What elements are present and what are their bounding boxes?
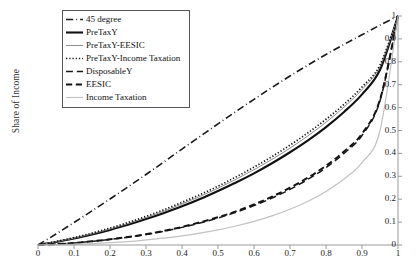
legend-line-sample-icon [66, 14, 83, 25]
legend-item-45-degree[interactable]: 45 degree [66, 13, 186, 26]
y-tick-label: 0.1 [376, 216, 396, 227]
legend-item-label: PreTaxY [86, 27, 118, 38]
y-tick-label: 1 [376, 10, 396, 21]
x-tick-label: 0 [26, 248, 50, 258]
x-tick-label: 0.5 [206, 248, 230, 258]
legend-item-pretaxy-income-taxation[interactable]: PreTaxY-Income Taxation [66, 52, 186, 65]
x-tick-label: 0.7 [278, 248, 302, 258]
x-tick-label: 0.6 [242, 248, 266, 258]
legend-item-label: 45 degree [86, 14, 121, 25]
legend-item-eesic[interactable]: EESIC [66, 78, 186, 91]
legend-item-label: PreTaxY-Income Taxation [86, 53, 180, 64]
legend-line-sample-icon [66, 92, 83, 103]
legend-item-label: PreTaxY-EESIC [86, 40, 145, 51]
legend-line-sample-icon [66, 79, 83, 90]
legend-item-label: EESIC [86, 79, 111, 90]
x-tick-label: 0.8 [314, 248, 338, 258]
legend-line-sample-icon [66, 27, 83, 38]
legend-line-sample-icon [66, 66, 83, 77]
legend-item-label: DisposableY [86, 66, 133, 77]
x-tick-label: 0.9 [350, 248, 374, 258]
legend-line-sample-icon [66, 53, 83, 64]
legend-item-disposabley[interactable]: DisposableY [66, 65, 186, 78]
y-tick-label: 0.2 [376, 193, 396, 204]
legend-item-label: Income Taxation [86, 92, 146, 103]
x-tick-label: 0.4 [170, 248, 194, 258]
y-tick-label: 0.3 [376, 170, 396, 181]
y-tick-label: 0.7 [376, 79, 396, 90]
legend-line-sample-icon [66, 40, 83, 51]
x-tick-label: 0.3 [134, 248, 158, 258]
y-tick-label: 0.4 [376, 147, 396, 158]
legend-item-income-taxation[interactable]: Income Taxation [66, 91, 186, 104]
x-tick-label: 0.2 [98, 248, 122, 258]
legend-item-pretaxy[interactable]: PreTaxY [66, 26, 186, 39]
y-tick-label: 0.8 [376, 56, 396, 67]
y-tick-label: 0.5 [376, 125, 396, 136]
x-tick-label: 0.1 [62, 248, 86, 258]
chart-legend: 45 degreePreTaxYPreTaxY-EESICPreTaxY-Inc… [62, 10, 190, 108]
y-tick-label: 0.9 [376, 33, 396, 44]
y-axis-title: Share of Income [11, 41, 21, 161]
y-tick-label: 0 [376, 239, 396, 250]
y-tick-label: 0.6 [376, 102, 396, 113]
chart-figure: Share of Income 00.10.20.30.40.50.60.70.… [0, 0, 417, 272]
legend-item-pretaxy-eesic[interactable]: PreTaxY-EESIC [66, 39, 186, 52]
